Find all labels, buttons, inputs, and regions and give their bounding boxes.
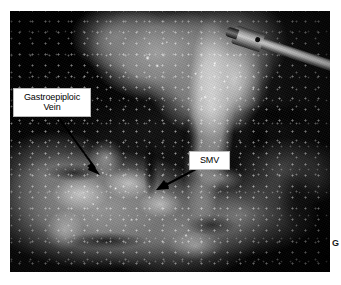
dark-field-layer [10, 11, 330, 272]
instrument-marker [255, 37, 261, 43]
vascular-pedicle-layer [10, 11, 330, 272]
panel-letter: G [332, 238, 339, 248]
intraoperative-photograph [10, 11, 330, 272]
dissection-clefts-layer [10, 11, 330, 272]
omental-tissue-layer [10, 11, 330, 272]
annotation-line-1: SMV [200, 155, 219, 165]
annotation-line-1: Gastroepiploic [24, 92, 80, 102]
surgical-instrument-icon [221, 18, 330, 83]
tissue-bed-layer [10, 11, 330, 272]
fat-lobules-layer [10, 11, 330, 272]
annotation-line-2: Vein [16, 102, 88, 112]
surgical-figure-panel: Gastroepiploic Vein SMV G [0, 0, 341, 285]
film-grain-layer [10, 11, 330, 272]
instrument-jaw [225, 26, 240, 39]
vignette-layer [10, 11, 330, 272]
annotation-label-gastroepiploic-vein: Gastroepiploic Vein [13, 88, 91, 117]
annotation-label-smv: SMV [189, 151, 230, 170]
instrument-shaft [247, 34, 330, 74]
specular-highlights-layer [10, 11, 330, 272]
serosal-speckle-layer [10, 11, 330, 272]
instrument-tip [231, 25, 265, 52]
